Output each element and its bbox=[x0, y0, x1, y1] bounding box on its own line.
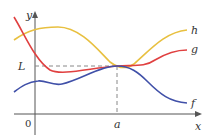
x-axis-arrow-icon bbox=[195, 111, 202, 117]
squeeze-theorem-diagram: y x 0 L a h g f bbox=[0, 0, 206, 137]
curve-f bbox=[14, 66, 187, 103]
curve-g-label: g bbox=[191, 43, 198, 56]
curve-g bbox=[14, 17, 187, 72]
point-label: a bbox=[114, 118, 121, 131]
y-axis-label: y bbox=[25, 9, 33, 22]
limit-label: L bbox=[17, 60, 25, 73]
x-axis-label: x bbox=[195, 120, 202, 133]
curve-h-label: h bbox=[191, 24, 198, 37]
origin-label: 0 bbox=[25, 118, 31, 129]
curve-f-label: f bbox=[190, 97, 197, 110]
y-axis-arrow-icon bbox=[32, 11, 38, 18]
